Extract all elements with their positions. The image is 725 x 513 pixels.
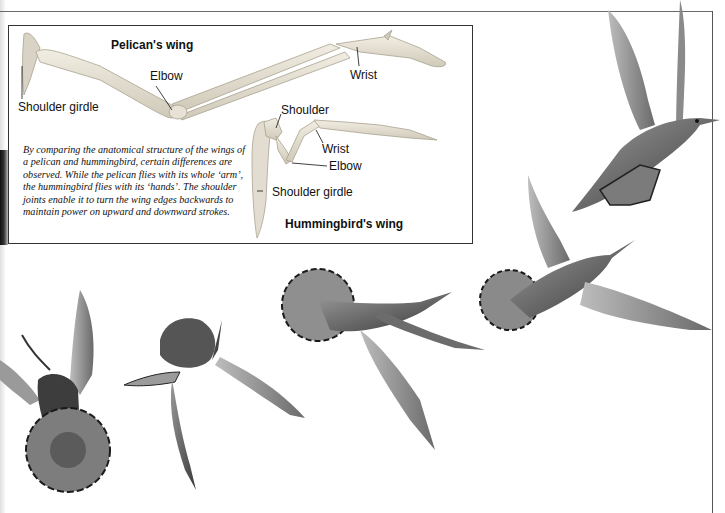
hummingbird-hovering-head-down [124,318,305,490]
pelican-wrist-label: Wrist [350,68,377,82]
hummingbird-wing-title: Hummingbird's wing [285,217,403,231]
hummingbird-hovering-front [0,290,110,492]
figure-caption: By comparing the anatomical structure of… [23,144,248,218]
hummingbird-wrist-label: Wrist [322,142,349,156]
pelican-wing-title: Pelican's wing [111,38,193,52]
hummingbird-shoulder-label: Shoulder [281,103,329,117]
hummingbird-flying-upward [572,0,720,212]
hummingbird-flying-tail-fanned [282,269,485,450]
hummingbird-elbow-label: Elbow [329,159,362,173]
pelican-shoulder-girdle-label: Shoulder girdle [18,100,99,114]
hummingbird-shoulder-girdle-label: Shoulder girdle [272,185,353,199]
caption-text: By comparing the anatomical structure of… [23,144,248,218]
pelican-elbow-label: Elbow [150,69,183,83]
